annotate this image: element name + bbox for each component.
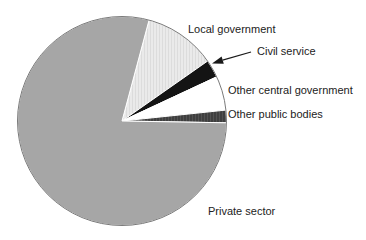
civil-service-arrow: [212, 52, 251, 64]
pie-chart-canvas: [0, 0, 366, 240]
label-other-public-bodies: Other public bodies: [228, 108, 323, 120]
label-other-central-government: Other central government: [228, 84, 353, 96]
pie-chart-figure: Local government Civil service Other cen…: [0, 0, 366, 240]
pie-slices: [17, 16, 226, 225]
label-civil-service: Civil service: [257, 45, 316, 57]
label-local-government: Local government: [188, 23, 275, 35]
label-private-sector: Private sector: [208, 205, 275, 217]
